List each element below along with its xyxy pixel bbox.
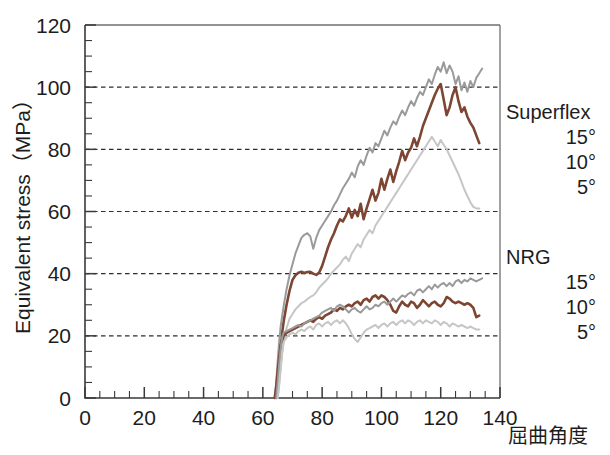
x-axis-title: 屈曲角度 bbox=[508, 424, 588, 449]
legend-item-nrg-5: 5° bbox=[506, 320, 602, 345]
y-tick-label-60: 60 bbox=[48, 200, 71, 223]
legend-title-nrg: NRG bbox=[506, 245, 602, 270]
legend-title-superflex: Superflex bbox=[506, 100, 602, 125]
series-nrg-5 bbox=[278, 320, 480, 398]
legend-group-superflex: Superflex 15° 10° 5° bbox=[506, 100, 602, 200]
legend-item-superflex-15: 15° bbox=[506, 125, 602, 150]
x-tick-label-40: 40 bbox=[192, 406, 215, 429]
series-superflex-10 bbox=[275, 62, 483, 398]
x-tick-label-20: 20 bbox=[133, 406, 156, 429]
figure-container: 020406080100120020406080100120140Equival… bbox=[0, 0, 610, 455]
legend-item-nrg-10: 10° bbox=[506, 295, 602, 320]
legend-item-superflex-5: 5° bbox=[506, 175, 602, 200]
y-tick-label-20: 20 bbox=[48, 324, 71, 347]
equivalent-stress-vs-bending-angle-chart: 020406080100120020406080100120140Equival… bbox=[0, 0, 610, 455]
y-tick-label-40: 40 bbox=[48, 262, 71, 285]
y-tick-label-120: 120 bbox=[36, 14, 71, 37]
y-tick-label-0: 0 bbox=[59, 387, 71, 410]
x-tick-label-120: 120 bbox=[423, 406, 458, 429]
series-superflex-15 bbox=[276, 84, 479, 398]
legend-item-nrg-15: 15° bbox=[506, 270, 602, 295]
legend-item-superflex-10: 10° bbox=[506, 150, 602, 175]
series-nrg-15 bbox=[275, 295, 480, 398]
x-tick-label-80: 80 bbox=[310, 406, 333, 429]
y-tick-label-80: 80 bbox=[48, 138, 71, 161]
series-superflex-5 bbox=[278, 137, 480, 398]
y-axis-title: Equivalent stress（MPa） bbox=[11, 89, 34, 334]
x-tick-label-0: 0 bbox=[79, 406, 91, 429]
legend-group-nrg: NRG 15° 10° 5° bbox=[506, 245, 602, 345]
x-tick-label-60: 60 bbox=[251, 406, 274, 429]
y-tick-label-100: 100 bbox=[36, 76, 71, 99]
x-tick-label-100: 100 bbox=[364, 406, 399, 429]
